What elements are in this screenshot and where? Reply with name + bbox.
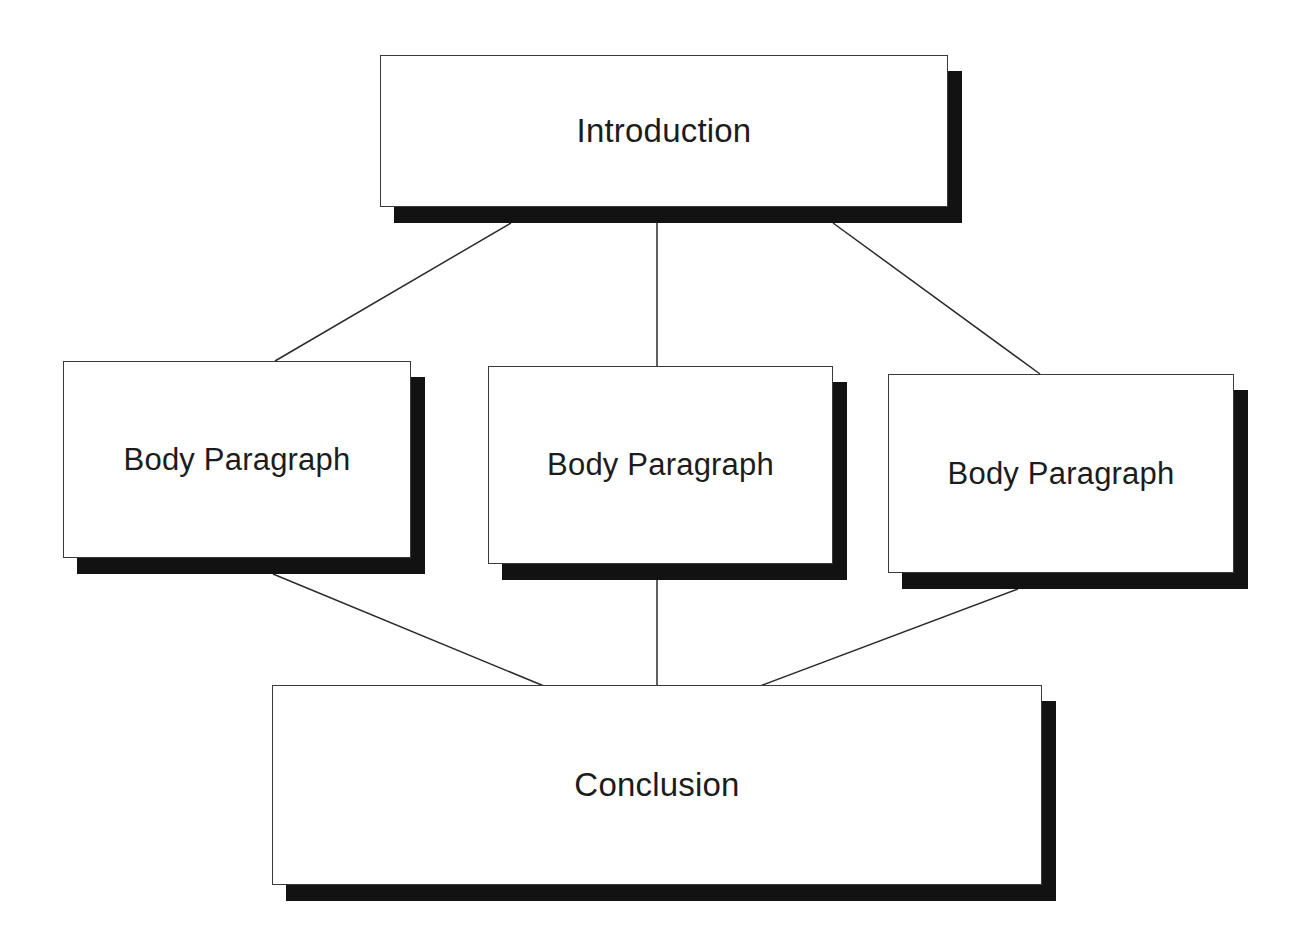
node-body-paragraph-3[interactable]: Body Paragraph — [888, 374, 1234, 573]
node-body-paragraph-2[interactable]: Body Paragraph — [488, 366, 833, 564]
node-introduction[interactable]: Introduction — [380, 55, 948, 207]
connector-intro-to-body3 — [833, 223, 1040, 374]
node-body-paragraph-1[interactable]: Body Paragraph — [63, 361, 411, 558]
node-label: Introduction — [577, 112, 752, 150]
node-box[interactable]: Conclusion — [272, 685, 1042, 885]
node-label: Conclusion — [574, 766, 739, 804]
node-box[interactable]: Body Paragraph — [888, 374, 1234, 573]
node-box[interactable]: Body Paragraph — [63, 361, 411, 558]
connector-body1-to-conclusion — [273, 574, 544, 686]
connector-intro-to-body1 — [275, 223, 511, 361]
node-conclusion[interactable]: Conclusion — [272, 685, 1042, 885]
connector-body3-to-conclusion — [760, 589, 1018, 686]
diagram-canvas: IntroductionBody ParagraphBody Paragraph… — [0, 0, 1298, 949]
node-label: Body Paragraph — [124, 442, 351, 478]
node-box[interactable]: Body Paragraph — [488, 366, 833, 564]
node-label: Body Paragraph — [948, 456, 1175, 492]
node-box[interactable]: Introduction — [380, 55, 948, 207]
node-label: Body Paragraph — [547, 447, 774, 483]
